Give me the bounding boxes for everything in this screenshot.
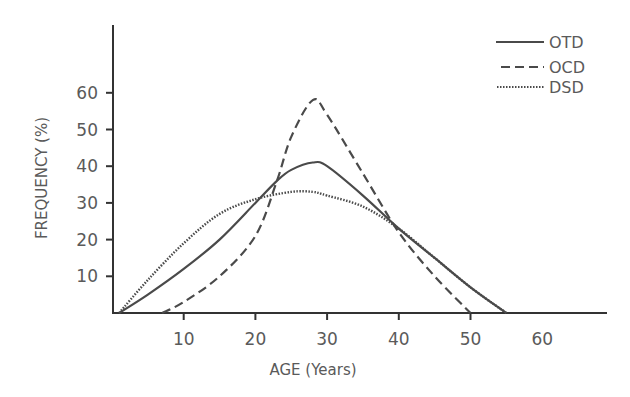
legend-label: DSD bbox=[549, 78, 584, 97]
legend: OTD OCD DSD bbox=[496, 33, 585, 97]
y-tick-label: 30 bbox=[76, 193, 98, 213]
x-tick-label: 40 bbox=[388, 329, 410, 349]
series-lines bbox=[119, 99, 506, 313]
legend-item-otd: OTD bbox=[496, 33, 584, 52]
chart-canvas: 102030405060 102030405060 AGE (Years) FR… bbox=[0, 0, 630, 397]
x-axis-title: AGE (Years) bbox=[269, 361, 356, 379]
y-tick-label: 40 bbox=[76, 156, 98, 176]
x-tick-label: 30 bbox=[316, 329, 338, 349]
x-tick-label: 20 bbox=[245, 329, 267, 349]
legend-item-ocd: OCD bbox=[501, 58, 585, 77]
y-tick-label: 20 bbox=[76, 230, 98, 250]
legend-label: OCD bbox=[549, 58, 585, 77]
x-tick-label: 10 bbox=[173, 329, 195, 349]
legend-item-dsd: DSD bbox=[497, 78, 584, 97]
y-tick-label: 50 bbox=[76, 120, 98, 140]
y-ticks: 102030405060 bbox=[76, 83, 113, 286]
y-axis-title: FREQUENCY (%) bbox=[33, 117, 51, 239]
x-tick-label: 60 bbox=[531, 329, 553, 349]
x-ticks: 102030405060 bbox=[173, 313, 553, 349]
legend-label: OTD bbox=[549, 33, 584, 52]
x-tick-label: 50 bbox=[460, 329, 482, 349]
series-line-dsd bbox=[119, 191, 506, 313]
y-tick-label: 60 bbox=[76, 83, 98, 103]
series-line-ocd bbox=[162, 99, 470, 313]
y-tick-label: 10 bbox=[76, 266, 98, 286]
